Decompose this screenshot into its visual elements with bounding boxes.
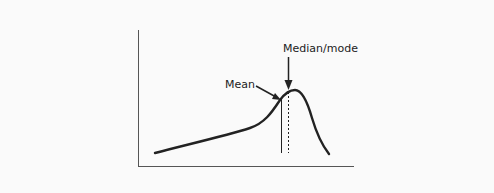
mean-label: Mean <box>225 78 255 91</box>
mean-arrowhead-icon <box>272 93 281 100</box>
median-arrowhead-icon <box>285 80 293 90</box>
distribution-curve <box>155 90 329 154</box>
skew-diagram: Mean Median/mode <box>0 0 494 193</box>
mean-arrow <box>256 86 276 97</box>
diagram-panel: Mean Median/mode <box>0 0 494 193</box>
median-mode-label: Median/mode <box>283 42 358 55</box>
